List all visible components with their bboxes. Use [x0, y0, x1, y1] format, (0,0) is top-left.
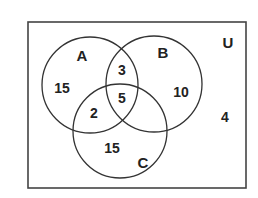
venn-diagram: U A B C 15 3 5 10 2 15 4 [0, 0, 258, 198]
set-a-label: A [77, 47, 88, 64]
region-a-and-b-count: 3 [118, 62, 126, 78]
region-a-only-count: 15 [54, 80, 70, 96]
universe-label: U [223, 34, 234, 51]
outside-count: 4 [221, 109, 229, 125]
region-a-and-c-count: 2 [90, 105, 98, 121]
region-a-b-c-count: 5 [118, 90, 126, 106]
region-b-only-count: 10 [173, 84, 189, 100]
set-c-label: C [138, 154, 149, 171]
set-b-label: B [158, 44, 169, 61]
region-c-only-count: 15 [104, 140, 120, 156]
